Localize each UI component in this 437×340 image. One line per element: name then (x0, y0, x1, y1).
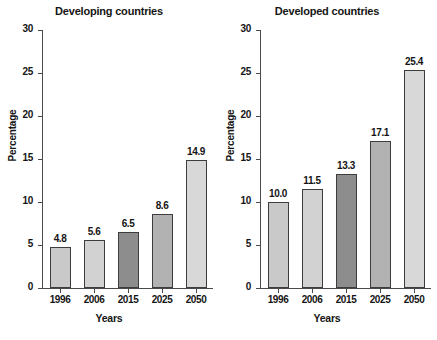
x-axis-label: Years (218, 312, 436, 324)
y-axis-tick-label: 30 (227, 23, 251, 34)
bar-value-label: 25.4 (394, 56, 435, 67)
panel-title: Developed countries (218, 5, 436, 17)
bar[interactable] (118, 232, 139, 288)
x-axis-category-label: 2050 (175, 294, 218, 305)
x-axis-category-label: 2050 (393, 294, 436, 305)
bar-slot[interactable]: 4.81996 (50, 30, 71, 288)
bar[interactable] (50, 247, 71, 288)
y-axis-tick-label: 0 (9, 281, 33, 292)
x-axis-tick (60, 289, 61, 293)
bar[interactable] (152, 214, 173, 288)
bar[interactable] (268, 202, 289, 288)
bar-slot[interactable]: 13.32015 (336, 30, 357, 288)
panel-title: Developing countries (0, 5, 218, 17)
chart-panel-developing: Developing countries Percentage 05101520… (0, 0, 218, 340)
y-axis-tick (38, 116, 42, 117)
plot-area: 051015202530 4.819965.620066.520158.6202… (43, 30, 213, 288)
x-axis-tick (346, 289, 347, 293)
bar-slot[interactable]: 11.52006 (302, 30, 323, 288)
x-axis-tick (94, 289, 95, 293)
bar[interactable] (302, 189, 323, 288)
y-axis-label: Percentage (225, 96, 236, 176)
bar-slot[interactable]: 17.12025 (370, 30, 391, 288)
bar[interactable] (370, 141, 391, 288)
y-axis-tick-label: 20 (9, 109, 33, 120)
bar-value-label: 6.5 (108, 218, 149, 229)
bar[interactable] (186, 160, 207, 288)
x-axis-label: Years (0, 312, 218, 324)
y-axis-label: Percentage (7, 96, 18, 176)
y-axis-tick-label: 5 (9, 238, 33, 249)
bar-slot[interactable]: 8.62025 (152, 30, 173, 288)
y-axis-tick (256, 30, 260, 31)
y-axis-tick-label: 0 (227, 281, 251, 292)
y-axis-tick (256, 288, 260, 289)
y-axis-tick-label: 15 (9, 152, 33, 163)
chart-panel-developed: Developed countries Percentage 051015202… (218, 0, 436, 340)
y-axis-tick (38, 202, 42, 203)
bar-slot[interactable]: 14.92050 (186, 30, 207, 288)
x-axis-tick (278, 289, 279, 293)
plot-area: 051015202530 10.0199611.5200613.3201517.… (261, 30, 431, 288)
y-axis-tick-label: 25 (227, 66, 251, 77)
bars-group: 4.819965.620066.520158.6202514.92050 (43, 30, 213, 288)
y-axis-tick-label: 5 (227, 238, 251, 249)
y-axis-tick (38, 159, 42, 160)
y-axis-tick-label: 10 (9, 195, 33, 206)
bar-slot[interactable]: 5.62006 (84, 30, 105, 288)
y-axis-tick (38, 288, 42, 289)
bar-value-label: 13.3 (326, 160, 367, 171)
figure-bar-chart-pair: Developing countries Percentage 05101520… (0, 0, 437, 340)
bar-value-label: 17.1 (360, 127, 401, 138)
bar-value-label: 14.9 (176, 146, 217, 157)
y-axis-tick (256, 73, 260, 74)
bar[interactable] (404, 70, 425, 288)
bar-slot[interactable]: 6.52015 (118, 30, 139, 288)
y-axis-tick (256, 202, 260, 203)
bar[interactable] (84, 240, 105, 288)
bar-slot[interactable]: 10.01996 (268, 30, 289, 288)
y-axis-tick (38, 245, 42, 246)
x-axis-tick (380, 289, 381, 293)
x-axis-tick (196, 289, 197, 293)
y-axis-tick (256, 159, 260, 160)
y-axis-tick-label: 15 (227, 152, 251, 163)
bars-group: 10.0199611.5200613.3201517.1202525.42050 (261, 30, 431, 288)
y-axis-tick (256, 116, 260, 117)
bar-slot[interactable]: 25.42050 (404, 30, 425, 288)
x-axis-tick (128, 289, 129, 293)
y-axis-tick-label: 25 (9, 66, 33, 77)
bar-value-label: 8.6 (142, 200, 183, 211)
bar-value-label: 11.5 (292, 175, 333, 186)
y-axis-tick (38, 30, 42, 31)
bar[interactable] (336, 174, 357, 288)
y-axis-tick-label: 30 (9, 23, 33, 34)
x-axis-tick (312, 289, 313, 293)
bar-value-label: 10.0 (258, 188, 299, 199)
y-axis-tick (256, 245, 260, 246)
y-axis-tick-label: 10 (227, 195, 251, 206)
x-axis-tick (162, 289, 163, 293)
x-axis-tick (414, 289, 415, 293)
y-axis-tick (38, 73, 42, 74)
y-axis-tick-label: 20 (227, 109, 251, 120)
